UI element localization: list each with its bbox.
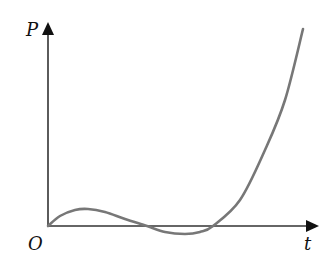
chart: P t O (0, 0, 336, 268)
x-axis-label: t (304, 233, 312, 254)
x-axis-arrow-icon (306, 220, 319, 232)
data-curve (48, 29, 303, 234)
y-axis-label: P (25, 19, 39, 40)
origin-label: O (28, 233, 43, 254)
y-axis-arrow-icon (42, 22, 54, 35)
